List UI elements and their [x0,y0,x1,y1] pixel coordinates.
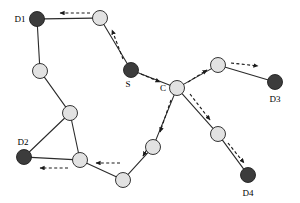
arrow-n8-to-D4 [228,143,244,163]
edge-n7-D3 [225,67,269,80]
node-n7[interactable] [211,58,226,73]
node-n6[interactable] [146,140,161,155]
node-label-D2: D2 [18,137,29,147]
edge-n2-n3 [44,77,66,108]
node-label-D4: D4 [243,188,254,198]
edge-n4-n5 [86,163,116,177]
edge-n5-n6 [128,152,149,175]
arrow-n7-to-D3 [231,63,258,66]
node-D3[interactable] [268,75,283,90]
edge-n3-n4 [71,120,78,154]
node-n3[interactable] [63,106,78,121]
arrow-C-to-n6 [160,100,171,132]
edge-C-n8 [182,93,214,129]
node-C[interactable] [170,81,185,96]
node-n4[interactable] [73,153,88,168]
node-label-S: S [125,79,130,89]
node-n8[interactable] [211,127,226,142]
edge-n1-S [104,24,128,64]
node-label-D3: D3 [270,94,281,104]
network-diagram: D1D2SCD3D4 [0,0,300,203]
edge-D1-n2 [37,26,39,64]
label-layer: D1D2SCD3D4 [15,14,281,198]
arrow-C-to-n8 [190,94,210,120]
node-label-C: C [160,83,166,93]
node-D1[interactable] [30,12,45,27]
node-D4[interactable] [241,168,256,183]
node-n1[interactable] [93,11,108,26]
edge-n8-D4 [222,140,244,170]
edge-D1-n1 [44,18,93,19]
node-label-D1: D1 [15,14,26,24]
node-D2[interactable] [17,150,32,165]
edge-n3-D2 [29,118,65,152]
node-n2[interactable] [33,64,48,79]
node-S[interactable] [124,63,139,78]
edge-D2-n4 [31,157,73,159]
node-n5[interactable] [116,173,131,188]
